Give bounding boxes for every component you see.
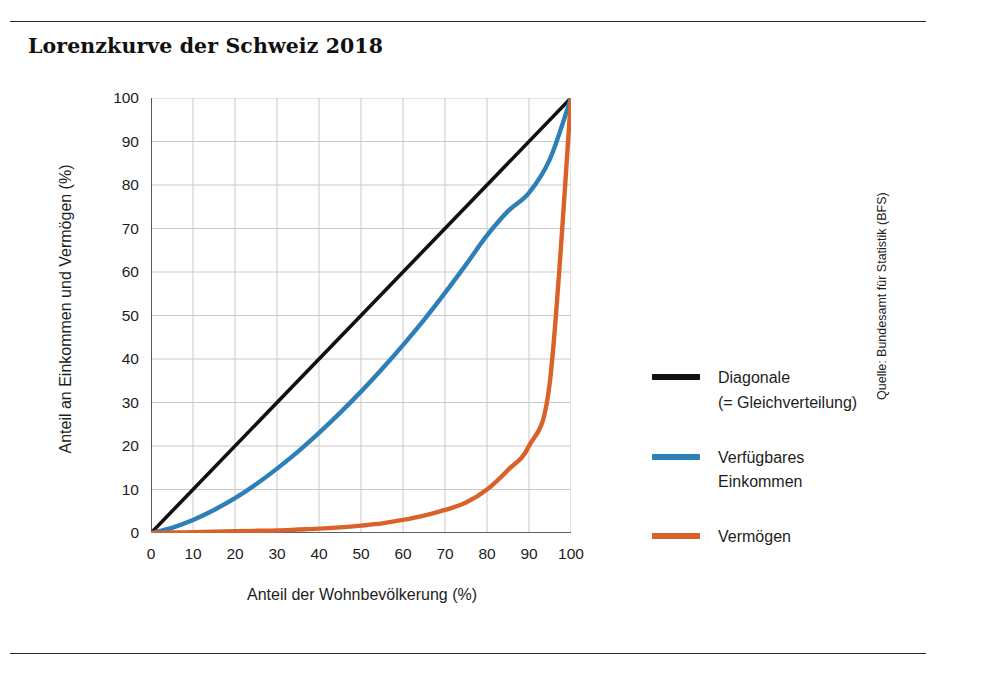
plot-area	[151, 98, 571, 533]
x-tick-label-80: 80	[464, 546, 510, 562]
x-tick-label-50: 50	[338, 546, 384, 562]
legend-swatch-vermoegen-icon	[652, 533, 700, 539]
bottom-divider-rule	[10, 653, 926, 654]
y-tick-label-40: 40	[99, 351, 139, 367]
legend-item-verfuegbares-einkommen: Verfügbares Einkommen	[652, 446, 912, 496]
legend-item-diagonale: Diagonale (= Gleichverteilung)	[652, 366, 912, 416]
x-tick-label-40: 40	[296, 546, 342, 562]
x-tick-label-30: 30	[254, 546, 300, 562]
y-axis-label: Anteil an Einkommen und Vermögen (%)	[57, 139, 75, 479]
x-tick-label-0: 0	[128, 546, 174, 562]
y-tick-label-80: 80	[99, 177, 139, 193]
top-divider-rule	[10, 21, 926, 22]
source-note: Quelle: Bundesamt für Statistik (BFS)	[875, 150, 889, 400]
x-tick-label-20: 20	[212, 546, 258, 562]
x-axis-label: Anteil der Wohnbevölkerung (%)	[150, 586, 574, 604]
chart-legend: Diagonale (= Gleichverteilung) Verfügbar…	[652, 366, 912, 580]
x-tick-label-100: 100	[548, 546, 594, 562]
x-tick-label-70: 70	[422, 546, 468, 562]
y-tick-label-100: 100	[99, 90, 139, 106]
y-tick-label-90: 90	[99, 134, 139, 150]
y-tick-label-20: 20	[99, 438, 139, 454]
legend-item-vermoegen: Vermögen	[652, 525, 912, 550]
lorenz-curve-plot	[151, 98, 571, 533]
legend-swatch-einkommen-icon	[652, 454, 700, 460]
legend-label-vermoegen: Vermögen	[718, 525, 791, 550]
y-tick-label-0: 0	[99, 525, 139, 541]
y-tick-label-60: 60	[99, 264, 139, 280]
x-tick-label-90: 90	[506, 546, 552, 562]
figure-container: Lorenzkurve der Schweiz 2018 01020304050…	[0, 0, 986, 695]
y-tick-label-10: 10	[99, 482, 139, 498]
x-tick-label-60: 60	[380, 546, 426, 562]
legend-swatch-diagonale-icon	[652, 374, 700, 380]
y-tick-label-50: 50	[99, 308, 139, 324]
y-tick-label-30: 30	[99, 395, 139, 411]
page-title: Lorenzkurve der Schweiz 2018	[28, 34, 383, 58]
y-tick-label-70: 70	[99, 221, 139, 237]
legend-label-einkommen: Verfügbares Einkommen	[718, 446, 804, 496]
legend-label-diagonale: Diagonale (= Gleichverteilung)	[718, 366, 857, 416]
x-tick-label-10: 10	[170, 546, 216, 562]
